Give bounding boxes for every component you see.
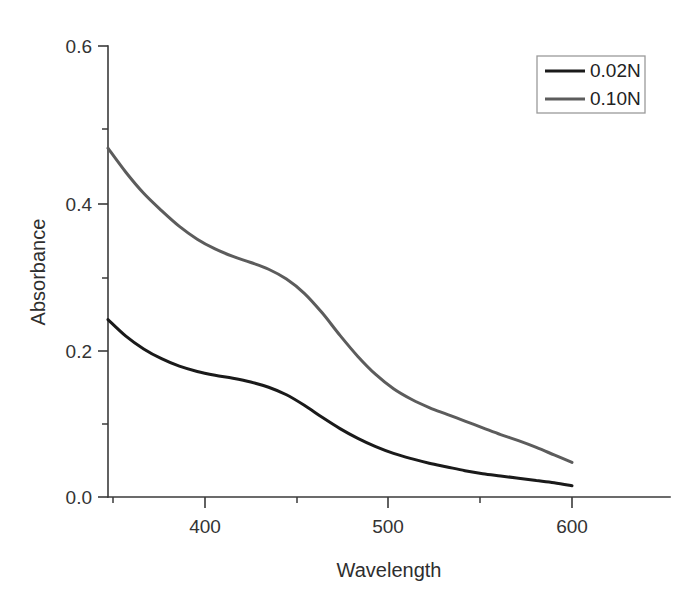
x-tick-label-0: 400 <box>189 516 221 537</box>
y-tick-label-2: 0.4 <box>66 194 93 215</box>
legend: 0.02N 0.10N <box>537 56 645 113</box>
chart-figure: 0.6 0.4 0.2 0.0 400 500 600 Wavelength A… <box>0 0 695 602</box>
x-tick-label-2: 600 <box>556 516 588 537</box>
y-axis-title: Absorbance <box>27 219 49 326</box>
series-line-0.10N <box>108 148 572 462</box>
x-axis-title: Wavelength <box>337 559 442 581</box>
x-tick-labels: 400 500 600 <box>189 516 588 537</box>
x-tick-label-1: 500 <box>372 516 404 537</box>
legend-label-0: 0.02N <box>590 60 641 81</box>
y-tick-label-0: 0.0 <box>66 487 92 508</box>
x-tick-group <box>113 497 572 508</box>
absorbance-spectrum-chart: 0.6 0.4 0.2 0.0 400 500 600 Wavelength A… <box>0 0 695 602</box>
legend-label-1: 0.10N <box>590 88 641 109</box>
series-line-0.02N <box>108 320 572 486</box>
y-tick-label-3: 0.6 <box>66 36 92 57</box>
y-tick-labels: 0.6 0.4 0.2 0.0 <box>66 36 93 508</box>
y-tick-group <box>98 46 108 497</box>
axes-group <box>108 46 670 497</box>
series-group <box>108 148 572 486</box>
y-tick-label-1: 0.2 <box>66 341 92 362</box>
